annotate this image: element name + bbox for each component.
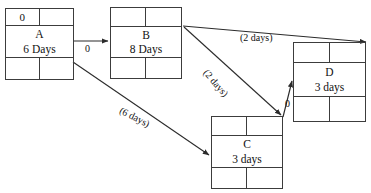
node-a-label: A [35,27,43,41]
node-b-late-start [111,58,146,78]
node-b-late-finish [146,58,181,78]
edge-b-to-d [183,26,366,42]
node-d-late-finish [330,97,366,121]
node-d-body: D 3 days [294,63,365,96]
node-b-body: B 8 Days [111,27,181,57]
node-c-early-start [212,117,247,135]
node-b-bottom-row [111,57,181,78]
node-d-early-finish [330,43,366,62]
node-c-late-start [212,168,247,188]
node-d-early-start [294,43,330,62]
node-a-late-start [6,58,40,79]
node-d-late-start [294,97,330,121]
node-a-late-finish [40,58,74,79]
node-a-body: A 6 Days [6,26,73,57]
node-c-late-finish [247,168,282,188]
node-d-label: D [325,65,333,79]
edge-label-c-to-d: 0 [285,99,290,109]
node-a-duration: 6 Days [23,42,55,56]
node-b-duration: 8 Days [130,42,162,56]
edge-label-b-to-d: (2 days) [240,33,273,43]
node-c-body: C 3 days [212,136,282,167]
node-a-early-start: 0 [6,9,40,25]
node-c-top-row [212,117,282,136]
node-c[interactable]: C 3 days [211,116,283,189]
node-a-top-row: 0 [6,9,73,26]
edge-label-a-to-b: 0 [85,44,90,54]
node-b[interactable]: B 8 Days [110,7,182,79]
node-b-top-row [111,8,181,27]
node-c-label: C [243,137,251,151]
node-d-duration: 3 days [315,80,345,94]
node-b-early-finish [146,8,181,26]
node-d[interactable]: D 3 days [293,42,366,122]
node-b-label: B [142,28,150,42]
node-c-early-finish [247,117,282,135]
network-diagram-canvas: 0 A 6 Days B 8 Days [0,0,371,193]
node-b-early-start [111,8,146,26]
node-a[interactable]: 0 A 6 Days [5,8,74,80]
node-c-duration: 3 days [232,152,262,166]
node-d-bottom-row [294,96,365,121]
node-d-top-row [294,43,365,63]
node-a-bottom-row [6,57,73,79]
node-c-bottom-row [212,167,282,188]
node-a-early-finish [40,9,74,25]
